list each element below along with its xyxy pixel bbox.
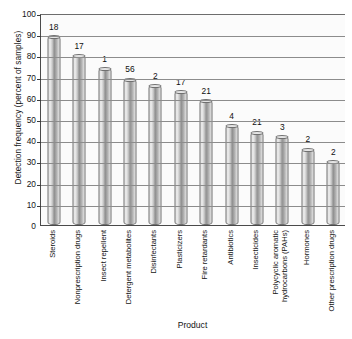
x-axis-label: Nonprescription drugs [74, 230, 83, 316]
bar-value-label: 1 [102, 55, 107, 63]
bar-slot: 2 [295, 15, 320, 225]
bar[interactable] [251, 132, 264, 225]
bar[interactable] [327, 161, 340, 225]
bar-slot: 2 [321, 15, 346, 225]
bar-value-label: 4 [229, 112, 234, 120]
y-tick-label-90: 90 [27, 31, 36, 39]
x-axis-category-labels: SteroidsNonprescription drugsInsect repe… [40, 228, 345, 316]
y-tick-label-50: 50 [27, 116, 36, 124]
bar-top-cap [225, 124, 238, 128]
x-axis-label: Disinfectants [150, 230, 159, 273]
bar-value-label: 17 [74, 42, 83, 50]
y-tick-mark-40 [37, 142, 41, 143]
y-tick-mark-50 [37, 121, 41, 122]
bar-slot: 17 [168, 15, 193, 225]
bar-value-label: 3 [280, 123, 285, 131]
x-label-slot: Insect repellent [91, 228, 116, 316]
x-axis-label: Detergent metabolites [125, 230, 134, 316]
bar-value-label: 18 [49, 23, 58, 31]
x-axis-title: Product [40, 320, 345, 330]
bar-slot: 4 [219, 15, 244, 225]
gridline-80 [41, 57, 345, 58]
y-tick-mark-70 [37, 79, 41, 80]
bar[interactable] [149, 85, 162, 225]
y-tick-label-20: 20 [27, 179, 36, 187]
y-tick-mark-30 [37, 163, 41, 164]
x-label-slot: Steroids [40, 228, 65, 316]
gridline-50 [41, 121, 345, 122]
gridline-90 [41, 36, 345, 37]
y-tick-mark-10 [37, 206, 41, 207]
bar-slot: 18 [41, 15, 66, 225]
x-axis-label: Steroids [48, 230, 57, 258]
y-tick-label-60: 60 [27, 95, 36, 103]
bar-top-cap [251, 131, 264, 135]
y-tick-label-30: 30 [27, 158, 36, 166]
bar-value-label: 56 [125, 65, 134, 73]
x-label-slot: Hormones [294, 228, 319, 316]
x-label-slot: Disinfectants [142, 228, 167, 316]
bar-top-cap [276, 135, 289, 139]
bar-value-label: 21 [202, 87, 211, 95]
x-label-slot: Nonprescription drugs [65, 228, 90, 316]
gridline-70 [41, 79, 345, 80]
bar-top-cap [98, 67, 111, 71]
gridline-40 [41, 142, 345, 143]
x-axis-label: Insect repellent [99, 230, 108, 282]
bar-slot: 2 [143, 15, 168, 225]
y-tick-mark-90 [37, 36, 41, 37]
x-axis-label: Polycyclic aromatic hydrocarbons (PAHs) [273, 230, 290, 316]
y-tick-label-100: 100 [22, 10, 36, 18]
x-axis-label: Fire retardants [201, 230, 210, 279]
bar-series: 181715621721421322 [41, 15, 345, 225]
x-label-slot: Plasticizers [167, 228, 192, 316]
bar-top-cap [174, 90, 187, 94]
gridline-60 [41, 100, 345, 101]
bar[interactable] [73, 55, 86, 225]
x-label-slot: Fire retardants [193, 228, 218, 316]
bar-value-label: 2 [331, 148, 336, 156]
x-label-slot: Insecticides [243, 228, 268, 316]
y-axis-tick-labels: 0102030405060708090100 [14, 14, 36, 226]
y-tick-label-10: 10 [27, 201, 36, 209]
bar-slot: 56 [117, 15, 142, 225]
x-label-slot: Other prescription drugs [320, 228, 345, 316]
bar-top-cap [149, 84, 162, 88]
bar[interactable] [98, 68, 111, 225]
x-label-slot: Detergent metabolites [116, 228, 141, 316]
bar-slot: 3 [270, 15, 295, 225]
y-tick-label-70: 70 [27, 73, 36, 81]
bar[interactable] [301, 149, 314, 225]
bar-slot: 17 [66, 15, 91, 225]
bar-slot: 21 [244, 15, 269, 225]
bar-chart: Detection frequency (percent of samples)… [0, 0, 352, 339]
y-tick-mark-80 [37, 57, 41, 58]
y-tick-mark-20 [37, 185, 41, 186]
y-tick-mark-100 [37, 15, 41, 16]
x-axis-label: Antibiotics [226, 230, 235, 265]
x-axis-label: Insecticides [252, 230, 261, 270]
x-axis-label: Other prescription drugs [328, 230, 337, 316]
y-tick-label-0: 0 [31, 222, 36, 230]
gridline-30 [41, 163, 345, 164]
bar-slot: 1 [92, 15, 117, 225]
bar[interactable] [225, 125, 238, 225]
bar-top-cap [301, 148, 314, 152]
bar[interactable] [276, 136, 289, 225]
y-tick-label-80: 80 [27, 52, 36, 60]
plot-area: 181715621721421322 [40, 14, 345, 226]
gridline-20 [41, 185, 345, 186]
y-tick-label-40: 40 [27, 137, 36, 145]
bar[interactable] [47, 36, 60, 225]
x-axis-label: Plasticizers [175, 230, 184, 268]
gridline-10 [41, 206, 345, 207]
bar-value-label: 21 [252, 118, 261, 126]
x-label-slot: Polycyclic aromatic hydrocarbons (PAHs) [269, 228, 294, 316]
x-axis-label: Hormones [303, 230, 312, 265]
y-tick-mark-60 [37, 100, 41, 101]
x-label-slot: Antibiotics [218, 228, 243, 316]
bar-slot: 21 [194, 15, 219, 225]
